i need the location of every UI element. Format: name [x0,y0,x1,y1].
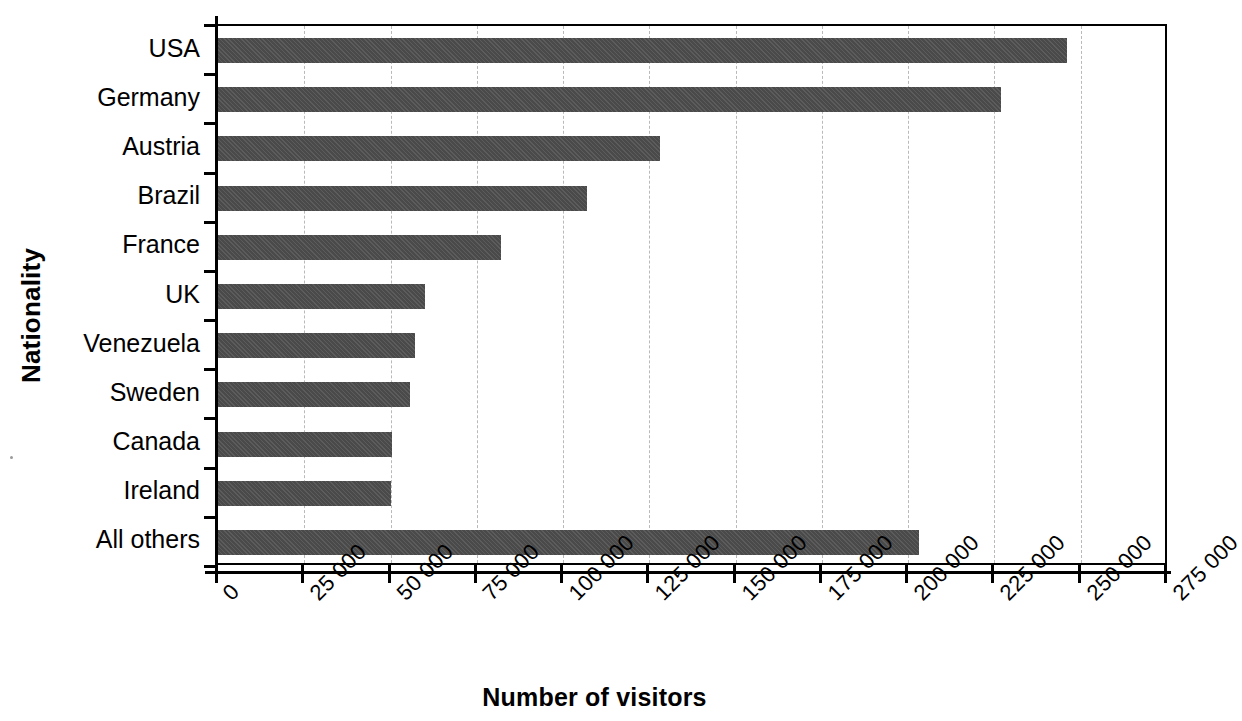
x-tick-mark [733,565,736,583]
y-tick-mark [204,122,217,125]
y-tick-label: Ireland [124,478,200,503]
x-tick-mark [474,565,477,583]
bar [218,382,410,407]
y-tick-mark [204,319,217,322]
y-tick-label: All others [96,527,200,552]
y-tick-mark [204,172,217,175]
bar [218,235,501,260]
y-axis-tick-labels: USAGermanyAustriaBrazilFranceUKVenezuela… [30,24,208,565]
plot-area [216,24,1167,565]
y-tick-mark [204,24,217,27]
x-tick-mark [301,565,304,583]
y-tick-mark [204,516,217,519]
bar [218,432,392,457]
bar [218,333,415,358]
x-tick-mark [991,565,994,583]
x-tick-mark [560,565,563,583]
y-tick-label: France [122,232,200,257]
x-tick-mark [388,565,391,583]
y-tick-mark [204,221,217,224]
y-tick-mark [204,417,217,420]
x-tick-mark [905,565,908,583]
y-tick-label: Canada [112,429,200,454]
x-tick-mark [1078,565,1081,583]
x-tick-label: 275 000 [1169,531,1242,604]
y-tick-label: USA [149,36,200,61]
bar [218,38,1067,63]
bar [218,284,425,309]
x-tick-label: 0 [219,580,243,604]
y-tick-label: Austria [122,134,200,159]
y-axis-line [215,16,218,573]
y-tick-label: Sweden [110,380,200,405]
y-tick-label: Brazil [137,183,200,208]
page-speck-artifact [10,456,13,459]
bar [218,186,587,211]
y-tick-mark [204,467,217,470]
bar [218,87,1001,112]
y-tick-mark [204,270,217,273]
y-tick-mark [204,73,217,76]
y-tick-label: UK [165,282,200,307]
x-tick-mark [819,565,822,583]
bar [218,530,919,555]
x-tick-mark [215,565,218,583]
bar [218,136,660,161]
y-tick-mark [204,368,217,371]
x-axis-title: Number of visitors [0,683,1189,712]
gridline-250000 [1081,26,1082,563]
y-tick-label: Venezuela [83,331,200,356]
x-tick-mark [1164,565,1167,583]
y-tick-label: Germany [97,85,200,110]
x-tick-mark [646,565,649,583]
bar [218,481,391,506]
